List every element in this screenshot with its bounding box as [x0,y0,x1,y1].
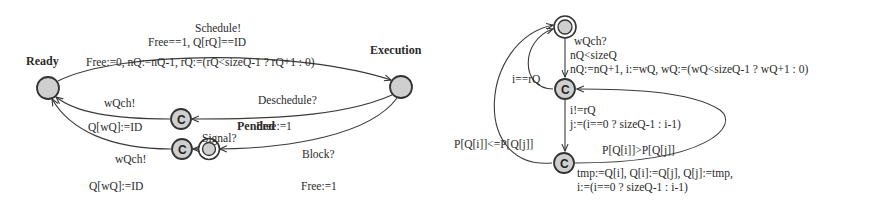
committed-icon: C [178,143,187,157]
location-queue-idle [554,16,576,38]
label-signal-sync: Signal? [202,132,237,145]
committed-icon: C [561,83,570,97]
location-execution-label: Execution [370,43,422,57]
committed-icon: C [177,113,186,127]
label-done-front-guard: i==rQ [512,73,541,85]
label-compare-guard: i!=rQ [570,104,596,116]
location-execution: Execution [370,43,422,98]
label-schedule-guard: Free==1, Q[rQ]==ID [148,36,246,49]
location-ready: Ready [26,54,59,99]
label-block-update: Free:=1 [301,180,337,192]
label-block-sync: Block? [302,148,335,160]
label-schedule-update: Free:=0, nQ:=nQ-1, rQ:=(rQ<sizeQ-1 ? rQ+… [86,56,315,69]
label-signal-to-ready-sync: wQch! [115,153,146,165]
left-automaton: Ready Execution C C Pended Schedule! Fre… [26,22,422,192]
label-deschedule-to-ready-sync: wQch! [104,97,135,109]
location-ready-label: Ready [26,54,59,68]
label-deschedule-sync: Deschedule? [258,94,317,106]
label-deschedule-to-ready-update: Q[wQ]:=ID [88,121,142,133]
label-swap-loop-update-2: i:=(i==0 ? sizeQ-1 : i-1) [577,181,688,194]
location-queue-swap: C [554,153,574,173]
committed-icon: C [560,157,569,171]
location-queue-check: C [555,79,575,99]
label-enqueue-sync: wQch? [574,35,607,47]
label-swap-loop-update-1: tmp:=Q[i], Q[i]:=Q[j], Q[j]:=tmp, [577,167,733,180]
right-automaton: C C wQch? nQ<sizeQ nQ:=nQ+1, i:=wQ, wQ:=… [454,16,808,194]
label-enqueue-update: nQ:=nQ+1, i:=wQ, wQ:=(wQ<sizeQ-1 ? wQ+1 … [570,63,808,76]
automata-diagram: Ready Execution C C Pended Schedule! Fre… [0,0,871,213]
label-deschedule-update: Free:=1 [256,120,292,132]
label-compare-update: j:=(i==0 ? sizeQ-1 : i-1) [569,118,681,131]
label-enqueue-guard: nQ<sizeQ [570,49,617,61]
location-commit-signal: C [172,139,192,159]
label-swap-loop-guard: P[Q[i]]>P[Q[j]] [602,144,675,157]
label-in-order-guard: P[Q[i]]<=P[Q[j]] [454,138,533,151]
location-commit-deschedule: C [171,109,191,129]
label-schedule-sync: Schedule! [195,22,241,34]
label-signal-to-ready-update: Q[wQ]:=ID [89,180,143,192]
